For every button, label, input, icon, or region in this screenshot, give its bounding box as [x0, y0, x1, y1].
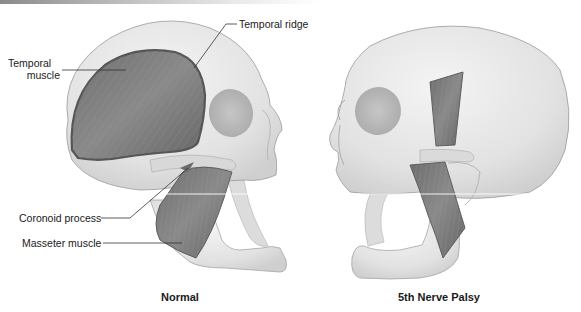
- palsy-skull: [330, 26, 569, 279]
- skull-illustration: [0, 0, 581, 312]
- label-temporal-muscle: Temporal muscle: [8, 57, 60, 81]
- caption-normal: Normal: [161, 291, 199, 303]
- label-temporal-ridge: Temporal ridge: [239, 18, 308, 30]
- label-coronoid-process: Coronoid process: [19, 212, 101, 224]
- label-temporal-muscle-line1: Temporal: [8, 57, 60, 69]
- label-masseter-muscle: Masseter muscle: [22, 237, 101, 249]
- label-temporal-muscle-line2: muscle: [8, 69, 60, 81]
- caption-5th-nerve-palsy: 5th Nerve Palsy: [398, 291, 480, 303]
- normal-skull: [67, 21, 287, 272]
